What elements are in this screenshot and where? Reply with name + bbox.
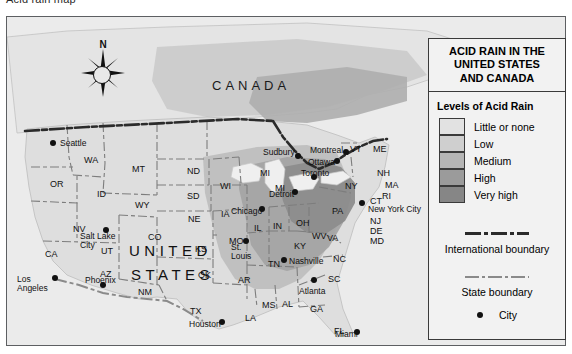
city-label-toronto: Toronto [301, 169, 329, 178]
state-label-ma-42: MA [385, 181, 399, 190]
state-label-ar-19: AR [238, 276, 251, 285]
state-label-ia-17: IA [221, 210, 230, 219]
state-label-pa-37: PA [332, 207, 343, 216]
legend-swatch-label-0: Little or none [474, 121, 535, 133]
state-label-id-2: ID [97, 190, 106, 199]
clipped-top-text: Acid rain map [6, 0, 76, 5]
state-label-md-47: MD [370, 237, 384, 246]
legend-levels-heading: Levels of Acid Rain [437, 100, 559, 112]
state-label-nd-4: ND [187, 167, 200, 176]
state-label-ks-14: KS [195, 245, 207, 254]
state-label-tx-16: TX [190, 307, 202, 316]
state-label-mt-3: MT [132, 165, 145, 174]
city-dot-atlanta [311, 277, 317, 283]
state-label-vt-39: VT [350, 145, 362, 154]
state-label-or-1: OR [50, 180, 64, 189]
state-label-al-22: AL [282, 300, 293, 309]
city-label-detroit: Detroit [269, 190, 294, 199]
state-label-sd-5: SD [187, 192, 200, 201]
compass-center-ring [93, 66, 111, 84]
legend-title-line-1: UNITED STATES [433, 58, 561, 71]
city-label-salt-lake-city: Salt LakeCity [80, 232, 115, 249]
state-label-nm-13: NM [138, 288, 152, 297]
state-label-wv-35: WV [312, 232, 327, 241]
city-dot-seattle [50, 140, 56, 146]
state-label-nc-26: NC [333, 255, 346, 264]
state-label-mi-30: MI [260, 169, 270, 178]
state-label-nh-41: NH [377, 169, 390, 178]
legend-swatch-label-1: Low [474, 138, 493, 150]
compass-rose: N [75, 39, 131, 101]
legend-divider-1 [435, 203, 559, 212]
international-boundary-label: International boundary [435, 243, 559, 255]
city-dot-nashville [281, 257, 287, 263]
legend-level-row-3: High [435, 169, 559, 186]
state-boundary-line-icon [465, 276, 529, 278]
city-dot-new-york-city [359, 200, 365, 206]
international-boundary-line-icon [465, 232, 529, 235]
state-label-ok-15: OK [198, 271, 211, 280]
legend-level-row-1: Low [435, 135, 559, 152]
state-boundary-sample-wrap [435, 264, 559, 282]
state-label-la-20: LA [245, 314, 256, 323]
state-label-va-36: VA [327, 234, 338, 243]
state-label-ky-28: KY [294, 242, 306, 251]
state-label-ga-23: GA [310, 305, 323, 314]
legend-swatch-0 [439, 118, 465, 135]
city-legend-label: City [499, 309, 517, 321]
legend-swatch-1 [439, 135, 465, 152]
state-label-ne-7: NE [188, 215, 201, 224]
state-label-ca-9: CA [45, 250, 58, 259]
state-label-sc-25: SC [328, 275, 341, 284]
city-label-st-louis: St.Louis [231, 243, 251, 260]
legend-body: Levels of Acid Rain Little or noneLowMed… [429, 92, 565, 325]
map-legend: ACID RAIN IN THEUNITED STATESAND CANADA … [428, 38, 566, 340]
city-label-montreal: Montreal [310, 146, 343, 155]
city-dot-montreal [343, 149, 349, 155]
city-dot-icon [477, 312, 483, 318]
legend-title-line-0: ACID RAIN IN THE [433, 45, 561, 58]
legend-swatch-3 [439, 169, 465, 186]
legend-title: ACID RAIN IN THEUNITED STATESAND CANADA [429, 39, 565, 92]
state-label-oh-34: OH [296, 219, 310, 228]
legend-swatch-label-4: Very high [474, 189, 518, 201]
country-label-canada: CANADA [212, 79, 290, 93]
state-label-il-32: IL [254, 224, 262, 233]
city-label-atlanta: Atlanta [299, 287, 325, 296]
legend-level-row-4: Very high [435, 186, 559, 203]
state-label-co-11: CO [148, 233, 162, 242]
legend-swatch-2 [439, 152, 465, 169]
state-label-wy-6: WY [135, 201, 150, 210]
city-label-nashville: Nashville [289, 257, 324, 266]
state-boundary-label: State boundary [435, 286, 559, 298]
state-label-me-40: ME [373, 145, 387, 154]
legend-swatch-label-3: High [474, 172, 496, 184]
legend-swatch-4 [439, 186, 465, 203]
city-label-miami: Miami [335, 330, 358, 339]
city-label-seattle: Seattle [60, 139, 86, 148]
state-label-ny-38: NY [345, 182, 358, 191]
state-label-tn-27: TN [268, 260, 280, 269]
city-legend-row: City [435, 309, 559, 321]
state-label-ri-43: RI [382, 192, 391, 201]
state-label-in-33: IN [273, 222, 282, 231]
acid-rain-map-page: Acid rain map [0, 0, 572, 354]
state-label-wa-0: WA [84, 156, 98, 165]
city-label-los-angeles: LosAngeles [17, 275, 48, 292]
legend-swatch-label-2: Medium [474, 155, 511, 167]
city-label-sudbury: Sudbury [263, 148, 295, 157]
city-label-chicago: Chicago [231, 207, 262, 216]
city-dot-los-angeles [52, 275, 58, 281]
city-label-new-york-city: New York City [368, 205, 421, 214]
legend-level-row-0: Little or none [435, 118, 559, 135]
international-boundary-sample-wrap [435, 221, 559, 239]
city-dot-sudbury [295, 153, 301, 159]
city-label-phoenix: Phoenix [85, 276, 116, 285]
city-label-houston: Houston [189, 320, 221, 329]
state-label-ms-21: MS [262, 301, 276, 310]
state-label-wi-29: WI [220, 182, 231, 191]
city-label-ottawa: Ottawa [308, 158, 335, 167]
legend-levels-list: Little or noneLowMediumHighVery high [435, 118, 559, 203]
legend-title-line-2: AND CANADA [433, 72, 561, 85]
legend-level-row-2: Medium [435, 152, 559, 169]
